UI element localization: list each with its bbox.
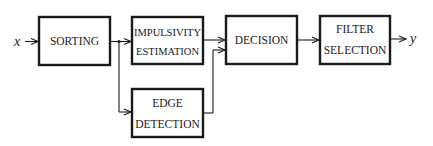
block-filter-selection: FILTER SELECTION [320, 16, 390, 64]
arrow-x-to-sorting [25, 39, 38, 45]
block-filter-line1: FILTER [336, 23, 374, 35]
wire-impulsivity-to-decision [203, 37, 225, 43]
block-sorting-label: SORTING [50, 35, 99, 47]
block-impulsivity-estimation: IMPULSIVITY ESTIMATION [132, 17, 203, 64]
wire-decision-to-filter [297, 37, 319, 43]
input-label: x [13, 34, 21, 49]
wire-sorting-branch [110, 39, 131, 116]
arrow-filter-to-y [390, 36, 406, 42]
block-impulsivity-line1: IMPULSIVITY [134, 27, 201, 38]
block-impulsivity-line2: ESTIMATION [136, 46, 199, 57]
block-edge-line2: DETECTION [135, 118, 200, 130]
block-filter-line2: SELECTION [324, 44, 387, 56]
wire-edge-to-decision [203, 47, 225, 113]
block-diagram: x SORTING IMPULSIVITY ESTIMATION EDGE DE… [0, 0, 433, 146]
block-edge-line1: EDGE [152, 97, 183, 109]
block-decision: DECISION [226, 16, 297, 64]
block-edge-detection: EDGE DETECTION [132, 89, 203, 137]
block-sorting: SORTING [39, 17, 110, 65]
block-decision-label: DECISION [235, 34, 289, 46]
output-label: y [408, 31, 417, 46]
